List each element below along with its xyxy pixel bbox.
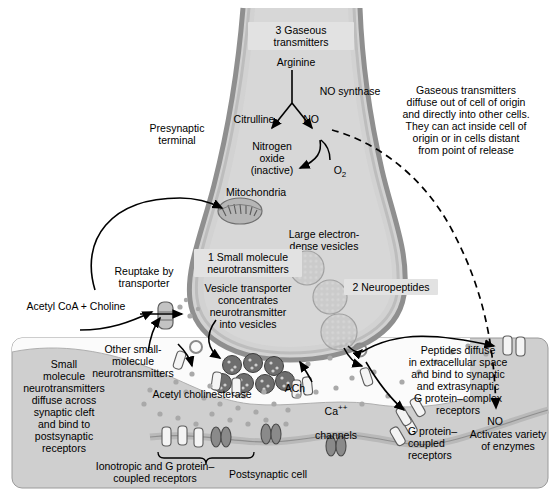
callout-gaseous-transmitters: 3 Gaseous transmitters	[248, 22, 354, 50]
ca-superscript: ++	[338, 403, 347, 412]
ionotropic-receptors	[162, 426, 203, 447]
ca-element: Ca	[325, 405, 338, 417]
o2-element: O	[334, 164, 342, 176]
label-small-molecule-diffuse: Small molecule neurotransmitters diffuse…	[18, 358, 110, 454]
label-no: NO	[296, 113, 326, 125]
label-ca-channels: Ca++ channels	[308, 390, 364, 441]
label-peptides-diffuse: Peptides diffuse in extracellular space …	[400, 344, 516, 416]
label-vesicle-transporter: Vesicle transporter concentrates neurotr…	[196, 282, 300, 330]
label-no-right: NO	[478, 415, 512, 427]
mitochondria-organelle	[218, 198, 262, 224]
ca-channels-word: channels	[315, 429, 357, 441]
label-presynaptic-terminal: Presynaptic terminal	[128, 122, 226, 146]
label-ach: ACh	[280, 382, 310, 394]
reuptake-transporter[interactable]	[158, 302, 173, 329]
label-ionotropic-receptors: Ionotropic and G protein– coupled recept…	[90, 460, 220, 484]
label-acetyl-coa-choline: Acetyl CoA + Choline	[8, 300, 144, 312]
label-arginine: Arginine	[258, 56, 334, 68]
label-nitrogen-oxide-inactive: Nitrogen oxide (inactive)	[236, 140, 308, 176]
o2-subscript: 2	[342, 170, 346, 179]
label-citrulline: Citrulline	[222, 113, 286, 125]
callout-small-molecule-neurotransmitters: 1 Small molecule neurotransmitters	[194, 249, 302, 277]
figure-canvas: 3 Gaseous transmitters Arginine NO synth…	[0, 0, 560, 503]
callout-neuropeptides: 2 Neuropeptides	[344, 279, 438, 295]
label-acetyl-cholinesterase: Acetyl cholinesterase	[148, 388, 256, 400]
label-mitochondria: Mitochondria	[211, 186, 301, 198]
label-gaseous-note: Gaseous transmitters diffuse out of cell…	[382, 84, 550, 156]
label-postsynaptic-cell: Postsynaptic cell	[212, 468, 324, 480]
label-activates-enzymes: Activates variety of enzymes	[460, 428, 556, 452]
label-reuptake-by-transporter: Reuptake by transporter	[100, 265, 188, 289]
label-o2: O2	[327, 152, 353, 181]
